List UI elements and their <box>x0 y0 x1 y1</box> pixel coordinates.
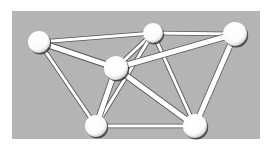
edge-tube <box>153 33 235 34</box>
node-sphere <box>104 56 128 80</box>
node-sphere <box>223 22 247 46</box>
node-sphere <box>143 23 163 43</box>
node-sphere <box>28 31 50 53</box>
graph-background-panel <box>12 11 260 139</box>
edge-b-e <box>153 33 235 34</box>
network-graph <box>0 0 274 153</box>
node-sphere <box>85 115 107 137</box>
node-sphere <box>183 114 207 138</box>
